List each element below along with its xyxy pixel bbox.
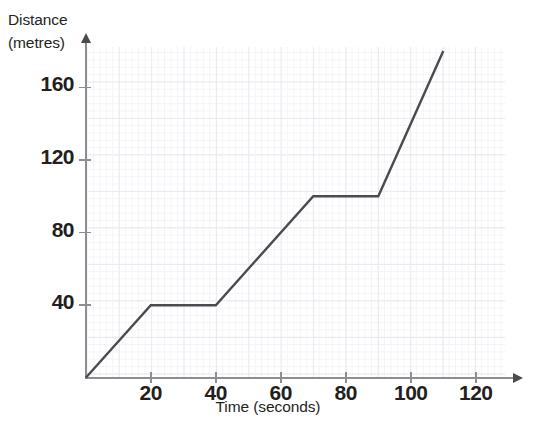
y-tick-label-80: 80 <box>0 218 74 242</box>
y-tick-120 <box>79 159 91 161</box>
y-axis-line <box>85 42 87 379</box>
y-axis-title-line1: Distance <box>8 8 100 31</box>
x-axis-title: Time (seconds) <box>0 398 536 416</box>
plot-grid <box>86 47 505 378</box>
y-tick-40 <box>79 304 91 306</box>
distance-time-graph: Distance (metres) 4080120160 20406080100… <box>0 0 536 448</box>
y-tick-label-120: 120 <box>0 145 74 169</box>
y-tick-label-40: 40 <box>0 290 74 314</box>
y-axis-arrow-icon <box>81 33 91 43</box>
y-tick-160 <box>79 87 91 89</box>
y-tick-80 <box>79 232 91 234</box>
y-tick-label-160: 160 <box>0 72 74 96</box>
